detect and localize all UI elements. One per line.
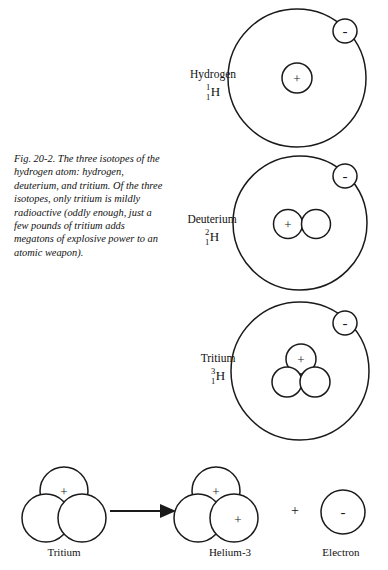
reaction-arrow xyxy=(110,504,176,518)
decay-product-nucleus: + + xyxy=(174,467,258,542)
decay-emitted-electron: - xyxy=(321,490,365,534)
neutron-circle xyxy=(300,367,330,397)
neutron-circle xyxy=(58,494,106,542)
proton-charge-symbol: + xyxy=(60,484,67,499)
nucleus-deuterium: + xyxy=(274,210,331,239)
atom-hydrogen: + - xyxy=(228,9,366,147)
electron-charge-symbol: - xyxy=(343,315,348,331)
proton-charge-symbol: + xyxy=(234,512,241,527)
proton-charge-symbol: + xyxy=(212,484,219,499)
electron-deuterium: - xyxy=(333,164,357,188)
atom-tritium: + - xyxy=(231,302,369,440)
nucleus-hydrogen: + xyxy=(282,63,312,93)
decay-reactant-nucleus: + xyxy=(22,467,106,542)
proton-charge-symbol: + xyxy=(284,217,291,232)
neutron-circle xyxy=(272,367,302,397)
electron-hydrogen: - xyxy=(333,19,357,43)
figure-root: Fig. 20-2. The three isotopes of the hyd… xyxy=(0,0,388,570)
electron-tritium: - xyxy=(333,311,357,335)
electron-charge-symbol: - xyxy=(343,168,348,184)
electron-charge-symbol: - xyxy=(343,23,348,39)
proton-charge-symbol: + xyxy=(297,352,304,367)
proton-charge-symbol: + xyxy=(293,71,300,86)
atom-deuterium: + - xyxy=(233,156,367,290)
nucleus-tritium: + xyxy=(272,344,330,397)
neutron-circle xyxy=(302,210,331,239)
atomic-diagrams: + - + - + xyxy=(0,0,388,570)
electron-charge-symbol: - xyxy=(341,504,346,520)
